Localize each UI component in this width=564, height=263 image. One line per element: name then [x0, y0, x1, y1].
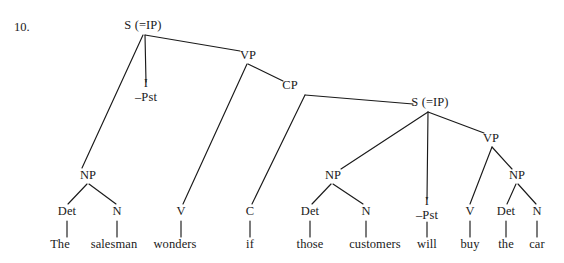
tree-terminal-w-the1: The [50, 238, 70, 252]
tree-node-n1: N [112, 205, 121, 219]
tree-node-np-emb-subj: NP [325, 169, 341, 183]
tree-terminal-w-those: those [297, 238, 324, 252]
tree-node-v2: V [465, 205, 474, 219]
syntax-tree-figure: 10. S (=IP)I–PstVPCPS (=IP)VPNPNPNPDetNV… [0, 0, 564, 263]
tree-edge-s-matrix-to-vp-matrix [145, 35, 240, 51]
tree-edge-np-subj-to-det1 [68, 184, 87, 204]
tree-edge-cp-to-s-embedded [305, 95, 413, 104]
tree-node-i-embedded: I–Pst [416, 194, 438, 222]
tree-edge-np-emb-subj-to-det2 [312, 184, 331, 204]
tree-node-det1: Det [58, 205, 76, 219]
tree-edge-np-subj-to-n1 [89, 184, 116, 204]
tree-edge-s-embedded-to-np-emb-subj [341, 112, 428, 169]
tree-node-c1: C [246, 205, 254, 219]
tree-node-i-matrix: I–Pst [135, 76, 157, 104]
tree-node-s-matrix: S (=IP) [124, 19, 161, 33]
tree-node-n2: N [361, 205, 370, 219]
tree-edge-cp-to-c1 [252, 95, 305, 204]
tree-node-i-matrix-feature: –Pst [135, 90, 157, 104]
tree-edge-np-obj-to-det3 [507, 184, 516, 204]
tree-node-cp: CP [282, 79, 298, 93]
tree-node-s-embedded: S (=IP) [411, 96, 448, 110]
tree-edge-vp-embedded-to-np-obj [492, 147, 512, 169]
tree-node-i-embedded-label: I [416, 194, 438, 208]
tree-node-i-embedded-feature: –Pst [416, 208, 438, 222]
tree-edge-s-embedded-to-vp-embedded [428, 112, 484, 133]
tree-node-vp-embedded: VP [483, 132, 499, 146]
tree-node-det2: Det [301, 205, 319, 219]
tree-branch-lines [0, 0, 564, 263]
tree-terminal-w-will: will [417, 238, 437, 252]
tree-node-i-matrix-label: I [135, 76, 157, 90]
tree-terminal-w-salesman: salesman [91, 238, 138, 252]
tree-terminal-w-customers: customers [349, 238, 401, 252]
tree-node-v1: V [176, 205, 185, 219]
tree-terminal-w-buy: buy [460, 238, 479, 252]
tree-edge-s-matrix-to-np-subj [82, 35, 143, 168]
tree-edge-np-emb-subj-to-n2 [333, 184, 363, 204]
tree-node-det3: Det [497, 205, 515, 219]
tree-node-np-obj: NP [509, 169, 525, 183]
tree-node-n3: N [532, 205, 541, 219]
tree-edge-np-obj-to-n3 [518, 184, 536, 204]
tree-edge-s-matrix-to-i-matrix [145, 35, 146, 82]
tree-node-np-subj: NP [80, 169, 96, 183]
tree-node-vp-matrix: VP [240, 49, 256, 63]
tree-edge-vp-embedded-to-v2 [470, 147, 492, 204]
tree-edge-vp-matrix-to-v1 [183, 64, 247, 204]
tree-terminal-w-if: if [246, 238, 254, 252]
tree-edge-vp-matrix-to-cp [248, 64, 283, 81]
tree-terminal-w-car: car [529, 238, 545, 252]
tree-terminal-w-wonders: wonders [153, 238, 196, 252]
tree-edge-s-embedded-to-i-embedded [427, 112, 428, 199]
tree-terminal-w-the2: the [498, 238, 514, 252]
